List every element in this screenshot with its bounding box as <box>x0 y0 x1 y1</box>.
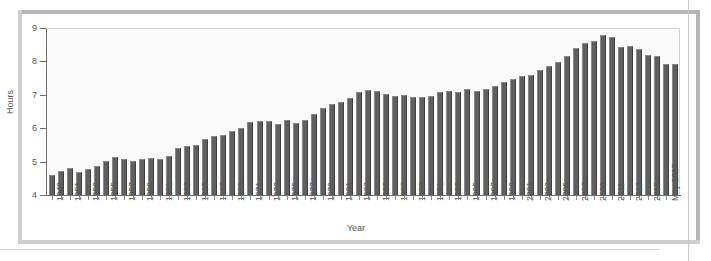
x-axis-tick <box>70 196 71 200</box>
x-axis-tick <box>232 196 233 200</box>
y-axis-tick-label: 5 <box>26 157 37 167</box>
x-axis-tick <box>639 196 640 200</box>
x-axis-tick <box>504 196 505 200</box>
x-axis-tick <box>458 196 459 200</box>
bar <box>49 175 55 195</box>
x-axis-tick <box>61 196 62 200</box>
bar <box>528 75 534 195</box>
bar <box>546 66 552 195</box>
chart-screenshot: Hours 456789 194919511953195519571959196… <box>0 0 711 261</box>
x-axis-tick <box>250 196 251 200</box>
bar <box>474 91 480 195</box>
bar <box>365 90 371 195</box>
bar <box>510 79 516 195</box>
y-axis-tick-label: 7 <box>26 90 37 100</box>
bar <box>419 97 425 195</box>
x-axis-tick <box>648 196 649 200</box>
x-axis-tick <box>413 196 414 200</box>
x-axis-tick <box>477 196 478 200</box>
x-axis-tick <box>79 196 80 200</box>
x-axis-tick <box>323 196 324 200</box>
frame-border-top <box>18 10 700 14</box>
bar <box>573 48 579 195</box>
x-axis-tick <box>196 196 197 200</box>
bar <box>356 92 362 195</box>
x-axis-tick <box>431 196 432 200</box>
x-axis-tick <box>205 196 206 200</box>
y-axis-tick <box>40 61 46 62</box>
bar <box>636 49 642 195</box>
x-axis-tick <box>223 196 224 200</box>
x-axis-tick <box>558 196 559 200</box>
x-axis-tick <box>395 196 396 200</box>
bar <box>121 159 127 195</box>
bar <box>157 159 163 195</box>
x-axis-tick <box>88 196 89 200</box>
x-axis-tick <box>522 196 523 200</box>
x-axis-tick <box>314 196 315 200</box>
bar-series <box>47 28 680 195</box>
x-axis-tick <box>178 196 179 200</box>
x-axis-tick <box>495 196 496 200</box>
x-axis-tick <box>115 196 116 200</box>
x-axis-tick <box>404 196 405 200</box>
bar <box>175 148 181 195</box>
x-axis-tick <box>305 196 306 200</box>
bar <box>483 89 489 195</box>
x-axis-tick <box>368 196 369 200</box>
bar <box>618 47 624 195</box>
x-axis-tick <box>287 196 288 200</box>
y-axis-tick-label: 8 <box>26 56 37 66</box>
x-axis-tick <box>296 196 297 200</box>
y-axis-tick <box>40 162 46 163</box>
x-axis-tick <box>124 196 125 200</box>
x-axis-tick <box>278 196 279 200</box>
bar <box>374 91 380 195</box>
x-axis-tick <box>540 196 541 200</box>
bar <box>492 86 498 195</box>
y-axis-tick-label: 9 <box>26 23 37 33</box>
frame-border-right <box>696 10 700 244</box>
bar <box>464 89 470 195</box>
x-axis-tick <box>612 196 613 200</box>
bar <box>320 108 326 195</box>
bar <box>229 131 235 195</box>
bar <box>446 91 452 195</box>
x-axis-tick <box>133 196 134 200</box>
x-axis-tick <box>142 196 143 200</box>
y-axis-tick-label: 6 <box>26 123 37 133</box>
x-axis-tick <box>567 196 568 200</box>
page-edge-bottom <box>0 249 660 250</box>
x-axis-tick <box>467 196 468 200</box>
x-axis-tick <box>386 196 387 200</box>
x-axis-tick <box>440 196 441 200</box>
bar <box>555 62 561 195</box>
bar <box>609 37 615 195</box>
bar <box>600 35 606 195</box>
x-axis-tick <box>585 196 586 200</box>
bar <box>193 145 199 195</box>
bar <box>410 97 416 195</box>
x-axis-tick <box>160 196 161 200</box>
y-axis-tick <box>40 95 46 96</box>
frame-border-bottom <box>18 240 700 244</box>
bar <box>428 96 434 195</box>
bar <box>392 96 398 195</box>
bar <box>501 82 507 195</box>
page-vertical-rule <box>688 0 689 261</box>
x-axis-tick <box>377 196 378 200</box>
x-axis-tick <box>341 196 342 200</box>
x-axis-tick <box>657 196 658 200</box>
x-axis-tick <box>214 196 215 200</box>
y-axis-tick <box>40 28 46 29</box>
x-axis-tick <box>151 196 152 200</box>
x-axis-tick <box>106 196 107 200</box>
bar <box>266 121 272 195</box>
bar <box>455 92 461 195</box>
bar <box>582 43 588 195</box>
x-axis-tick <box>666 196 667 200</box>
x-axis-tick <box>621 196 622 200</box>
x-axis-tick <box>594 196 595 200</box>
bar <box>103 161 109 195</box>
x-axis-tick <box>422 196 423 200</box>
